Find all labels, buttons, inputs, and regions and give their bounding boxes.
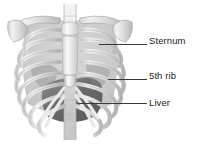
leader-line-sternum bbox=[99, 44, 147, 45]
leader-line-liver bbox=[78, 103, 147, 104]
ribcage-anatomy-illustration bbox=[0, 0, 140, 144]
leader-line-fifth-rib bbox=[108, 79, 147, 80]
annotation-label-liver: Liver bbox=[149, 98, 170, 108]
annotation-label-sternum: Sternum bbox=[149, 36, 186, 46]
annotation-label-fifth-rib: 5th rib bbox=[149, 71, 176, 81]
anatomy-figure: Sternum 5th rib Liver bbox=[0, 0, 200, 144]
